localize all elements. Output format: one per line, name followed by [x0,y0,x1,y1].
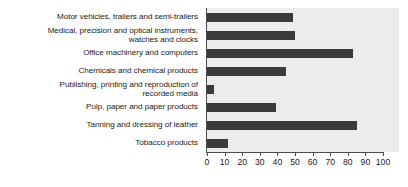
x-tick-mark [365,152,366,156]
bar-category-label: Motor vehicles, trailers and semi-traile… [57,12,198,21]
x-tick-mark [225,152,226,156]
bar-category-label: Publishing, printing and reproduction of… [60,80,198,99]
x-tick-label: 70 [325,157,335,167]
x-tick-mark [277,152,278,156]
bar-category-label: Tanning and dressing of leather [87,120,198,129]
bar [207,13,293,22]
bar-row: Office machinery and computers [0,44,408,62]
bar [207,85,214,94]
bar-track [207,44,399,62]
bar [207,103,276,112]
bar [207,31,295,40]
x-tick-label: 60 [308,157,318,167]
bar-row: Medical, precision and optical instrumen… [0,26,408,44]
x-tick-mark [383,152,384,156]
horizontal-bar-chart: Motor vehicles, trailers and semi-traile… [0,0,408,187]
bar-track [207,80,399,98]
x-tick-mark [348,152,349,156]
x-tick-label: 0 [205,157,210,167]
x-tick-mark [313,152,314,156]
x-tick-mark [330,152,331,156]
x-tick-mark [260,152,261,156]
x-tick-label: 90 [361,157,371,167]
bar-row: Pulp, paper and paper products [0,98,408,116]
bar-track [207,134,399,152]
x-tick-label: 100 [376,157,390,167]
x-tick-mark [295,152,296,156]
bar-row: Tobacco products [0,134,408,152]
x-tick-label: 20 [237,157,247,167]
bar-track [207,116,399,134]
bar-track [207,98,399,116]
bar [207,121,357,130]
bar-category-label: Tobacco products [135,138,198,147]
bar-category-label: Medical, precision and optical instrumen… [48,26,198,45]
x-tick-label: 40 [273,157,283,167]
bar-track [207,62,399,80]
x-tick-mark [242,152,243,156]
bar-row: Tanning and dressing of leather [0,116,408,134]
bar-category-label: Chemicals and chemical products [79,66,198,75]
x-tick-label: 50 [290,157,300,167]
bar [207,49,353,58]
bar [207,67,286,76]
bar-row: Chemicals and chemical products [0,62,408,80]
bar-track [207,26,399,44]
bar-category-label: Pulp, paper and paper products [86,102,198,111]
bar-rows: Motor vehicles, trailers and semi-traile… [0,8,408,152]
x-tick-label: 80 [343,157,353,167]
bar-row: Publishing, printing and reproduction of… [0,80,408,98]
bar-row: Motor vehicles, trailers and semi-traile… [0,8,408,26]
bar-category-label: Office machinery and computers [83,48,198,57]
bar [207,139,228,148]
bar-track [207,8,399,26]
x-tick-label: 10 [220,157,230,167]
x-tick-label: 30 [255,157,265,167]
x-tick-mark [207,152,208,156]
